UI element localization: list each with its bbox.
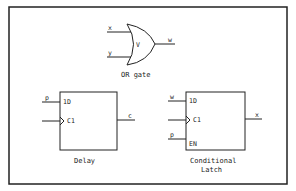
latch-pin-c1: C1 <box>193 116 201 124</box>
delay-input-label: p <box>45 94 49 102</box>
delay-output-label: c <box>128 112 132 120</box>
or-gate-caption: OR gate <box>121 71 151 79</box>
delay-clock-triangle-icon <box>60 117 64 125</box>
or-gate-body <box>127 24 155 65</box>
or-output-label: w <box>168 36 172 44</box>
latch-pin-en: EN <box>189 140 197 148</box>
latch-clock-triangle-icon <box>186 116 190 124</box>
latch-output-label: x <box>255 111 259 119</box>
delay-pin-c1: C1 <box>67 117 75 125</box>
or-input-x-label: x <box>108 24 112 32</box>
latch-enable-label: p <box>170 131 174 139</box>
or-input-y-label: y <box>108 49 112 57</box>
latch-caption-line2: Latch <box>201 166 222 174</box>
latch-input-label: w <box>170 93 174 101</box>
or-gate: x y V w OR gate <box>107 24 175 79</box>
delay-caption: Delay <box>74 157 95 165</box>
latch-caption-line1: Conditional <box>190 157 236 165</box>
latch-pin-1d: 1D <box>189 97 197 105</box>
latch-block: w p 1D C1 EN x Conditional Latch <box>168 92 262 174</box>
delay-block: p 1D C1 c Delay <box>42 92 135 165</box>
circuit-diagram: x y V w OR gate p 1D C1 c Delay w p 1D C… <box>0 0 296 191</box>
or-symbol: V <box>136 41 140 49</box>
delay-pin-1d: 1D <box>63 98 71 106</box>
